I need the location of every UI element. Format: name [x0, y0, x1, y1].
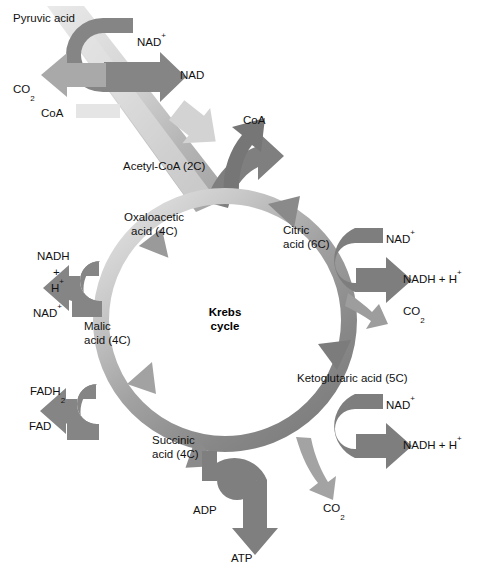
coa-entry-arrow — [76, 104, 120, 118]
center-title-line2: cycle — [211, 320, 240, 332]
label-co2-citric: CO2 — [403, 305, 425, 325]
label-ketoglutaric-acid: Ketoglutaric acid (5C) — [297, 372, 408, 384]
label-pyruvic-acid: Pyruvic acid — [13, 12, 75, 24]
label-oxaloacetic-acid-line2: acid (4C) — [131, 225, 178, 237]
label-nad-plus-malic: NAD+ — [33, 302, 62, 320]
label-co2-ketoglutaric: CO2 — [323, 502, 345, 522]
label-nadh-h-citric: NADH + H+ — [403, 268, 462, 286]
label-succinic-acid-line2: acid (4C) — [152, 448, 199, 460]
label-coa-release: CoA — [243, 114, 266, 126]
label-co2-pyruvate: CO2 — [13, 83, 35, 103]
co2-release-arrow-ketoglutaric — [296, 437, 336, 500]
label-nad-plus-pyruvate: NAD+ — [137, 31, 166, 49]
diagram-canvas: Pyruvic acid NAD+ NAD CO2 CoA Acetyl-CoA… — [0, 0, 480, 569]
center-title-line1: Krebs — [209, 306, 242, 318]
label-nadh-left-line1: NADH — [37, 250, 70, 262]
nad-plus-stub-bar — [103, 18, 133, 33]
label-nad-plus-citric: NAD+ — [386, 228, 415, 246]
label-nadh-h-ketoglutaric: NADH + H+ — [403, 434, 462, 452]
label-nad-pyruvate: NAD — [180, 69, 204, 81]
label-atp: ATP — [231, 552, 253, 564]
label-citric-acid-line1: Citric — [283, 224, 309, 236]
atp-synthesis-arrow — [202, 451, 278, 555]
label-malic-acid-line1: Malic — [84, 320, 111, 332]
label-citric-acid-line2: acid (6C) — [283, 238, 330, 250]
label-fadh2: FADH2 — [30, 385, 66, 405]
label-succinic-acid-line1: Succinic — [152, 434, 195, 446]
label-fad: FAD — [29, 420, 51, 432]
label-oxaloacetic-acid-line1: Oxaloacetic — [124, 211, 184, 223]
label-acetyl-coa: Acetyl-CoA (2C) — [123, 160, 206, 172]
label-adp: ADP — [193, 504, 217, 516]
krebs-cycle-diagram: Pyruvic acid NAD+ NAD CO2 CoA Acetyl-CoA… — [0, 0, 480, 569]
label-malic-acid-line2: acid (4C) — [84, 334, 131, 346]
label-coa-entry: CoA — [41, 107, 64, 119]
label-nad-plus-ketoglutaric: NAD+ — [386, 394, 415, 412]
